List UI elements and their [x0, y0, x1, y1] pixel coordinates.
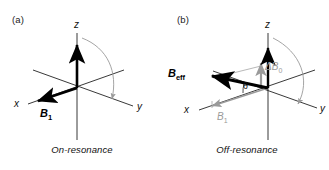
b1-label-sub-b: 1	[224, 117, 228, 124]
beff-vector-b	[212, 76, 268, 88]
delta-b0-label-sub-b: 0	[278, 67, 282, 74]
axis-label-y-b: y	[320, 104, 325, 114]
b1-label-sub-a: 1	[48, 113, 52, 122]
delta-b0-label-b: ΔB0	[265, 62, 282, 74]
panel-off-resonance: (b)	[165, 0, 329, 170]
axis-label-x-b: x	[184, 105, 189, 115]
b1-vector-a	[38, 88, 77, 101]
b1-label-a: B1	[40, 108, 52, 122]
beff-label-text-b: B	[168, 67, 176, 79]
b1-label-text-a: B	[40, 107, 48, 119]
beff-label-b: Beff	[168, 68, 185, 82]
figure-canvas: (a) z x y B	[0, 0, 329, 170]
b1-vector-b	[212, 88, 268, 106]
y-axis-line-a	[33, 70, 133, 106]
panel-on-resonance: (a) z x y B	[0, 0, 164, 170]
axis-label-y-a: y	[137, 102, 142, 112]
caption-off-resonance: Off-resonance	[165, 144, 329, 155]
axis-label-z-b: z	[265, 20, 270, 30]
beff-label-sub-b: eff	[176, 73, 185, 82]
theta-label-b: θ	[243, 82, 248, 91]
axis-label-z-a: z	[74, 20, 79, 30]
rotation-arc-a	[82, 38, 114, 99]
delta-b0-label-text-b: ΔB	[265, 61, 278, 72]
axis-label-x-a: x	[14, 99, 19, 109]
caption-on-resonance: On-resonance	[0, 144, 164, 155]
b1-label-text-b: B	[217, 111, 224, 122]
beff-projection-line-b	[213, 66, 261, 78]
b1-label-b: B1	[217, 112, 228, 124]
